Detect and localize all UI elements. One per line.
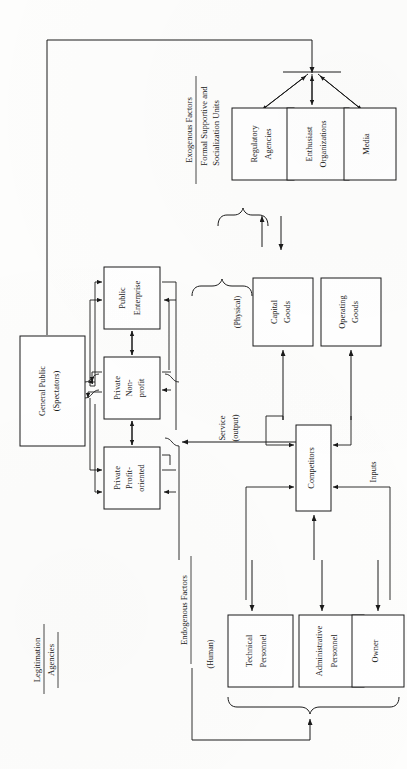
general-public-label-line2: (Spectators) [52,371,61,412]
inputs-label-group: Inputs [369,462,378,483]
regulatory-agencies-label-line2: Agencies [264,128,273,159]
operating-goods-label-line2: Goods [351,301,360,323]
socialization-units-label-line2: Socialization Units [211,100,221,166]
physical-group-brace [192,279,252,296]
regulatory-agencies-label-line1: Regulatory [250,125,259,163]
physical-label: (Physical) [233,295,242,328]
box-operating-goods: Operating Goods [321,278,381,346]
endogenous-factors-heading: Endogenous Factors [179,556,191,664]
diagram-canvas: Regulatory Agencies Enthusiast Organizat… [0,0,407,769]
exogenous-factors-heading: Exogenous Factors [184,76,196,184]
diagram-svg: Regulatory Agencies Enthusiast Organizat… [0,0,407,769]
box-technical-personnel: Technical Personnel [228,615,293,687]
media-label: Media [362,133,371,155]
private-nonprofit-label-line2: Non- [125,379,134,396]
endogenous-factors-label: Endogenous Factors [179,574,189,645]
human-label: (Human) [206,639,215,668]
exogenous-factors-label: Exogenous Factors [184,97,194,163]
box-private-nonprofit: Private Non- profit [104,357,160,419]
exogenous-distribution-bar [262,72,362,110]
legitimation-agencies-label: Legitimation Agencies [32,624,58,694]
service-label-line2: (output) [231,414,240,441]
private-profit-label-line2: Profit- [125,467,134,489]
exogenous-group-brace [218,208,268,226]
enthusiast-organizations-label-line2: Organizations [319,121,328,168]
exogenous-subheading: Formal Supportive and Socialization Unit… [199,86,221,166]
competitors-label: Competitors [307,447,316,488]
administrative-personnel-label-line1: Administrative [315,626,324,677]
inputs-label: Inputs [369,462,378,483]
enthusiast-organizations-label-line1: Enthusiast [305,126,314,162]
operating-goods-label-line1: Operating [338,294,347,328]
capital-goods-label-line2: Goods [283,301,292,323]
technical-personnel-label-line2: Personnel [259,634,268,668]
box-competitors: Competitors [296,425,331,511]
legitimation-label-line1: Legitimation [32,637,42,682]
box-capital-goods: Capital Goods [253,278,313,346]
public-provider-left-bus [85,282,102,492]
administrative-personnel-label-line2: Personnel [330,634,339,668]
service-output-flow: Service (output) [182,414,300,442]
capital-goods-label-line1: Capital [270,299,279,324]
human-tag: (Human) [206,639,215,668]
endogenous-group-brace [228,697,399,714]
endogenous-input-arrows [252,560,378,611]
box-regulatory-agencies: Regulatory Agencies [232,108,294,180]
private-nonprofit-label-line1: Private [113,376,122,400]
physical-tag: (Physical) [233,295,242,328]
technical-personnel-label-line1: Technical [245,634,254,667]
service-label-line1: Service [218,415,227,440]
box-media: Media [344,108,396,180]
general-public-label-line1: General Public [38,366,47,416]
box-public-enterprise: Public Enterprise [104,267,160,329]
public-enterprise-label-line2: Enterprise [133,281,142,316]
box-general-public: General Public (Spectators) [20,336,85,446]
provider-output-bus [162,282,179,492]
exogenous-service-exchange-arrows [262,216,281,250]
private-nonprofit-label-line3: profit [137,378,146,397]
agencies-label-line2: Agencies [46,643,56,676]
private-profit-label-line1: Private [113,466,122,490]
physical-input-arrows [283,350,351,420]
private-profit-label-line3: oriented [137,463,146,491]
formal-supportive-label-line1: Formal Supportive and [199,86,209,166]
public-enterprise-label-line1: Public [118,287,127,309]
box-owner: Owner [352,615,404,687]
box-private-profit-oriented: Private Profit- oriented [104,447,160,509]
box-enthusiast-organizations: Enthusiast Organizations [287,108,349,180]
owner-label: Owner [371,639,380,662]
